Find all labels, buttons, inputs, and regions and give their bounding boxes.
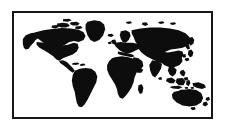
world-map-canvas (14, 13, 211, 117)
map-border-frame (12, 11, 213, 119)
world-map-image (0, 0, 225, 127)
world-map-svg (14, 13, 211, 117)
